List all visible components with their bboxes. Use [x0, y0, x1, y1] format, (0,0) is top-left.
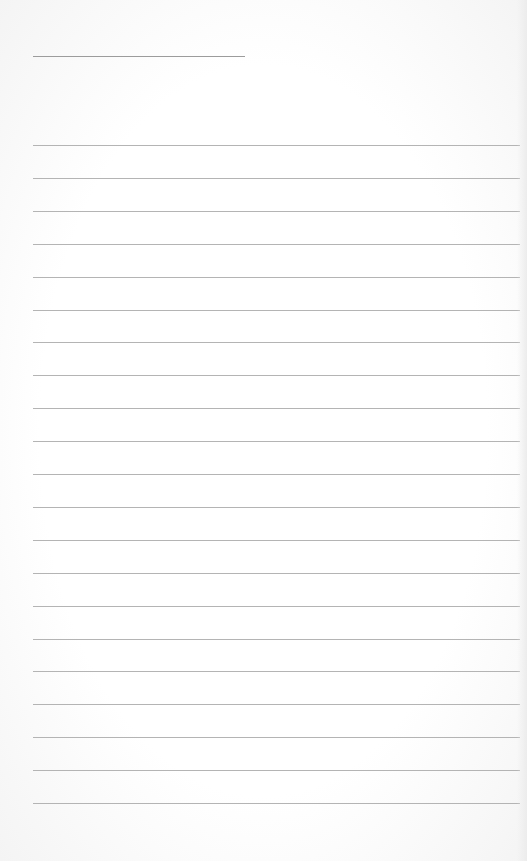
header-line — [33, 56, 245, 57]
ruled-line — [33, 244, 520, 245]
ruled-line — [33, 803, 520, 804]
ruled-line — [33, 573, 520, 574]
ruled-line — [33, 606, 520, 607]
ruled-line — [33, 671, 520, 672]
ruled-line — [33, 342, 520, 343]
ruled-line — [33, 408, 520, 409]
ruled-line — [33, 704, 520, 705]
ruled-line — [33, 540, 520, 541]
ruled-line — [33, 507, 520, 508]
ruled-line — [33, 178, 520, 179]
ruled-line — [33, 277, 520, 278]
ruled-line — [33, 375, 520, 376]
paper-edge-shadow — [517, 0, 527, 861]
ruled-line — [33, 211, 520, 212]
ruled-line — [33, 441, 520, 442]
ruled-line — [33, 310, 520, 311]
ruled-line — [33, 639, 520, 640]
ruled-line — [33, 737, 520, 738]
ruled-line — [33, 770, 520, 771]
ruled-line — [33, 474, 520, 475]
notepaper-sheet — [0, 0, 527, 861]
ruled-line — [33, 145, 520, 146]
